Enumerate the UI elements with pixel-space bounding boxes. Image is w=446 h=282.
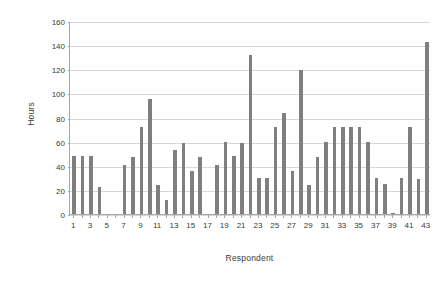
bar bbox=[316, 157, 320, 214]
x-axis-ticks: 135791113151719212325272931333537394143 bbox=[69, 215, 430, 245]
bar bbox=[324, 142, 328, 214]
bar-chart: Hours 020406080100120140160 135791113151… bbox=[0, 0, 446, 282]
x-tick-mark bbox=[90, 215, 91, 218]
y-tick-label: 0 bbox=[35, 211, 65, 220]
bar bbox=[408, 127, 412, 214]
x-tick-mark bbox=[258, 215, 259, 218]
y-tick-label: 20 bbox=[35, 186, 65, 195]
bar bbox=[282, 113, 286, 214]
x-tick-mark bbox=[392, 215, 393, 218]
bar bbox=[173, 150, 177, 214]
x-tick-mark bbox=[157, 215, 158, 218]
y-tick-label: 40 bbox=[35, 162, 65, 171]
bar bbox=[240, 143, 244, 214]
x-tick-mark bbox=[82, 215, 83, 218]
bar bbox=[89, 156, 93, 214]
bar bbox=[249, 55, 253, 214]
y-tick-label: 140 bbox=[35, 42, 65, 51]
x-tick-label: 43 bbox=[416, 221, 436, 230]
x-tick-mark bbox=[350, 215, 351, 218]
bar bbox=[307, 185, 311, 214]
bar bbox=[358, 127, 362, 214]
x-tick-mark bbox=[199, 215, 200, 218]
x-tick-mark bbox=[291, 215, 292, 218]
bar bbox=[224, 142, 228, 214]
x-tick-mark bbox=[216, 215, 217, 218]
x-tick-mark bbox=[140, 215, 141, 218]
x-tick-mark bbox=[333, 215, 334, 218]
x-tick-mark bbox=[342, 215, 343, 218]
x-tick-mark bbox=[426, 215, 427, 218]
x-tick-mark bbox=[367, 215, 368, 218]
bar bbox=[215, 165, 219, 214]
bar bbox=[190, 171, 194, 214]
bar bbox=[400, 178, 404, 214]
x-tick-mark bbox=[124, 215, 125, 218]
x-tick-mark bbox=[224, 215, 225, 218]
bar bbox=[232, 156, 236, 214]
x-tick-mark bbox=[317, 215, 318, 218]
x-tick-mark bbox=[275, 215, 276, 218]
plot-area bbox=[69, 22, 430, 215]
x-axis-title: Respondent bbox=[69, 253, 430, 263]
bar bbox=[375, 178, 379, 214]
x-tick-mark bbox=[132, 215, 133, 218]
bar bbox=[383, 184, 387, 214]
x-tick-mark bbox=[384, 215, 385, 218]
bar bbox=[333, 127, 337, 214]
x-tick-mark bbox=[266, 215, 267, 218]
x-tick-mark bbox=[283, 215, 284, 218]
x-tick-mark bbox=[417, 215, 418, 218]
bar bbox=[140, 127, 144, 214]
bar bbox=[165, 200, 169, 214]
x-tick-mark bbox=[250, 215, 251, 218]
bar bbox=[366, 142, 370, 214]
y-axis-tick-labels: 020406080100120140160 bbox=[33, 22, 65, 215]
gridline bbox=[70, 46, 430, 47]
x-tick-mark bbox=[107, 215, 108, 218]
y-tick-label: 160 bbox=[35, 18, 65, 27]
bar bbox=[341, 127, 345, 214]
bar bbox=[291, 171, 295, 214]
x-tick-mark bbox=[73, 215, 74, 218]
x-tick-mark bbox=[325, 215, 326, 218]
bar bbox=[391, 213, 395, 214]
x-tick-mark bbox=[401, 215, 402, 218]
x-tick-mark bbox=[191, 215, 192, 218]
y-tick-label: 80 bbox=[35, 114, 65, 123]
x-tick-mark bbox=[166, 215, 167, 218]
bar bbox=[72, 156, 76, 214]
bar bbox=[417, 179, 421, 214]
y-tick-label: 120 bbox=[35, 66, 65, 75]
bar bbox=[349, 127, 353, 214]
x-tick-mark bbox=[98, 215, 99, 218]
bar bbox=[81, 156, 85, 214]
bar bbox=[156, 185, 160, 214]
bar bbox=[182, 143, 186, 214]
x-tick-mark bbox=[308, 215, 309, 218]
bar bbox=[425, 42, 429, 214]
bar bbox=[265, 178, 269, 214]
bar bbox=[257, 178, 261, 214]
bar bbox=[148, 99, 152, 214]
bar bbox=[299, 70, 303, 214]
x-tick-mark bbox=[233, 215, 234, 218]
x-tick-mark bbox=[359, 215, 360, 218]
x-tick-mark bbox=[182, 215, 183, 218]
bar bbox=[98, 187, 102, 214]
x-tick-mark bbox=[241, 215, 242, 218]
gridline bbox=[70, 22, 430, 23]
bar bbox=[123, 165, 127, 214]
x-tick-mark bbox=[149, 215, 150, 218]
x-tick-mark bbox=[409, 215, 410, 218]
x-tick-mark bbox=[115, 215, 116, 218]
bar bbox=[131, 157, 135, 214]
x-tick-mark bbox=[174, 215, 175, 218]
x-tick-mark bbox=[208, 215, 209, 218]
bar bbox=[274, 127, 278, 214]
bar bbox=[198, 157, 202, 214]
y-tick-label: 100 bbox=[35, 90, 65, 99]
y-tick-label: 60 bbox=[35, 138, 65, 147]
x-tick-mark bbox=[375, 215, 376, 218]
x-tick-mark bbox=[300, 215, 301, 218]
